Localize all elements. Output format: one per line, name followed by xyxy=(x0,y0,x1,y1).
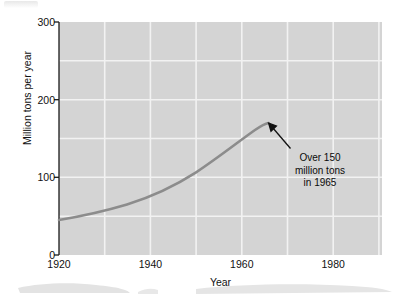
annotation-line-3: in 1965 xyxy=(278,177,362,190)
annotation-line-2: million tons xyxy=(278,165,362,178)
x-axis-title: Year xyxy=(59,276,382,288)
x-tick-1940: 1940 xyxy=(125,258,175,270)
x-tick-1920: 1920 xyxy=(34,258,84,270)
chart-svg xyxy=(0,0,402,298)
x-tick-1980: 1980 xyxy=(308,258,358,270)
y-tick-200: 200 xyxy=(11,95,55,105)
y-tick-300: 300 xyxy=(11,17,55,27)
x-tick-1960: 1960 xyxy=(217,258,267,270)
annotation-line-1: Over 150 xyxy=(278,152,362,165)
y-tick-100: 100 xyxy=(11,172,55,182)
figure-container: 300 200 100 0 1920 1940 1960 1980 Millio… xyxy=(0,0,402,298)
y-axis-title: Million tons per year xyxy=(21,38,33,158)
annotation-text: Over 150 million tons in 1965 xyxy=(278,152,362,190)
data-curve xyxy=(59,123,269,220)
